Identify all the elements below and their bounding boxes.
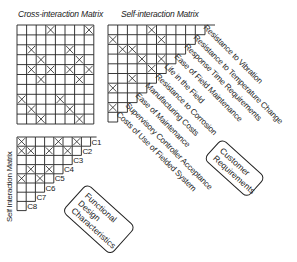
design-characteristic-c5: C5 [55, 174, 65, 183]
design-characteristic-c8: C8 [27, 202, 37, 211]
design-characteristic-c3: C3 [73, 156, 83, 165]
design-characteristic-c2: C2 [82, 147, 92, 156]
design-characteristic-c1: C1 [92, 138, 102, 147]
design-characteristic-c7: C7 [36, 193, 46, 202]
design-characteristic-c6: C6 [46, 184, 56, 193]
design-characteristic-c4: C4 [64, 165, 74, 174]
self-interaction-left-title: Self Interaction Matrix [5, 152, 14, 222]
